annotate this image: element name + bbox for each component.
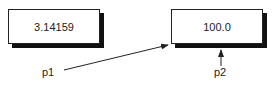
pointer-label-p1: p1: [42, 66, 54, 78]
arrow-p1: [64, 45, 168, 70]
pointer-label-p2: p2: [214, 66, 226, 78]
